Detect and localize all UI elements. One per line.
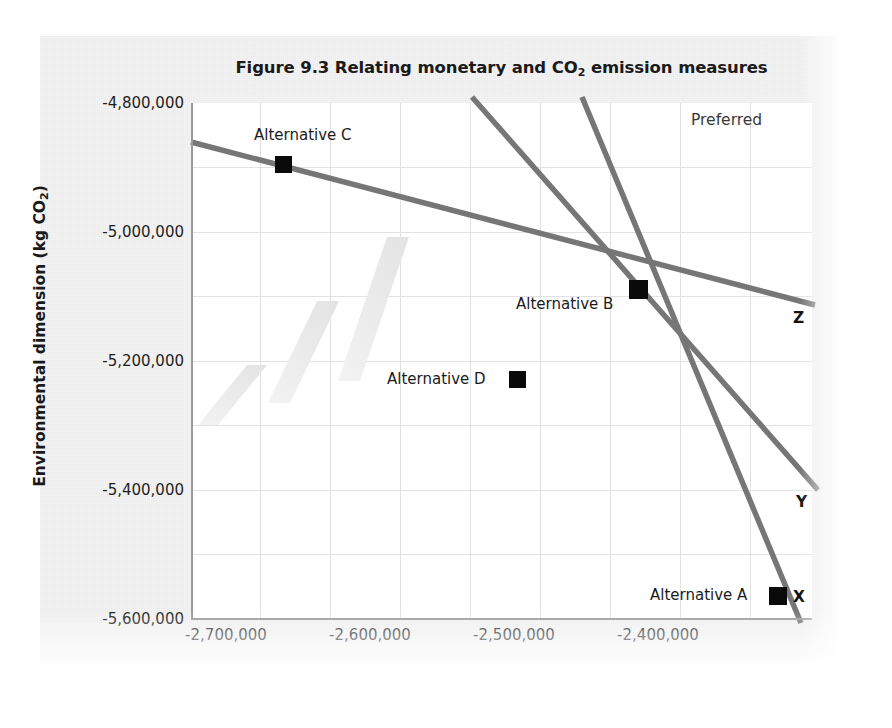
label-alternative-c: Alternative C: [254, 126, 352, 144]
preferred-direction-arrows: [198, 237, 409, 425]
figure-title-prefix: Figure 9.3 Relating monetary and CO: [235, 58, 577, 77]
y-tick-label: -5,200,000: [102, 352, 184, 370]
plot-area: Alternative C Alternative B Alternative …: [191, 103, 812, 620]
y-axis-line: [191, 103, 193, 620]
y-tick-label: -4,800,000: [102, 94, 184, 112]
y-axis-tick-labels: -4,800,000 -5,000,000 -5,200,000 -5,400,…: [60, 103, 184, 620]
figure-title-subscript: 2: [578, 66, 586, 79]
tradeoff-line-x: [582, 97, 801, 623]
chart-overlay: [191, 103, 812, 620]
label-alternative-d: Alternative D: [387, 370, 486, 388]
marker-alternative-a: [769, 587, 787, 605]
preferred-label: Preferred: [691, 111, 762, 129]
marker-alternative-c: [275, 156, 292, 173]
y-tick-label: -5,000,000: [102, 223, 184, 241]
label-alternative-b: Alternative B: [516, 295, 613, 313]
page-edge-fade-bottom: [40, 610, 852, 692]
marker-alternative-b: [629, 280, 648, 299]
label-alternative-a: Alternative A: [650, 586, 747, 604]
tradeoff-lines: [191, 97, 818, 623]
figure-title-suffix: emission measures: [585, 58, 767, 77]
y-axis-title-subscript: 2: [38, 192, 51, 200]
figure-page: Figure 9.3 Relating monetary and CO2 emi…: [0, 0, 892, 728]
page-edge-fade-right: [800, 36, 852, 692]
y-axis-title: Environmental dimension (kg CO2): [31, 146, 49, 526]
figure-title: Figure 9.3 Relating monetary and CO2 emi…: [191, 58, 812, 77]
marker-alternative-d: [509, 371, 526, 388]
y-tick-label: -5,400,000: [102, 481, 184, 499]
